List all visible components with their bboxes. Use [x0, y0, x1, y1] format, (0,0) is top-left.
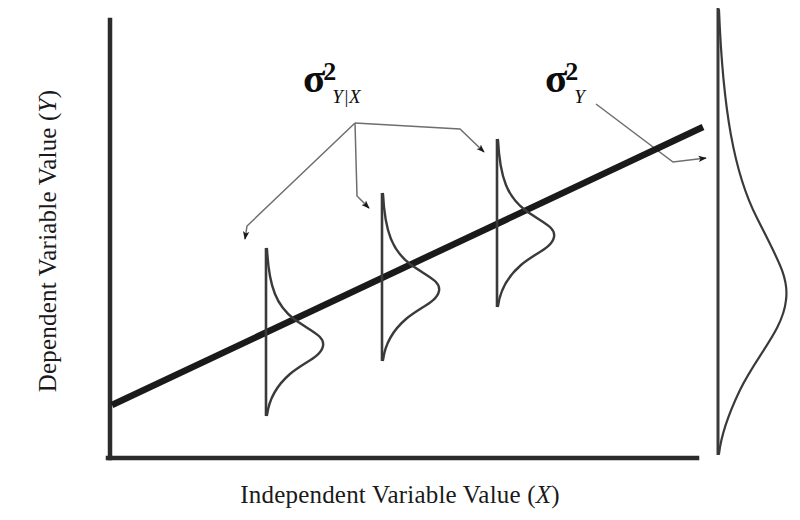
marginal-normal-curve: [719, 10, 787, 454]
plot-canvas: [0, 0, 800, 520]
sigma-squared-marginal-label: σ2Y: [545, 58, 591, 99]
x-axis-title-suffix: ): [551, 481, 560, 508]
regression-distribution-figure: σ2Y|X σ2Y Dependent Variable Value (Y) I…: [0, 0, 800, 520]
sigma-superscript-marginal: 2: [565, 57, 578, 86]
y-axis-title-suffix: ): [34, 90, 61, 99]
x-axis-title-variable: X: [536, 481, 551, 508]
sigma-subscript-conditional: Y|X: [332, 86, 361, 107]
sigma-symbol-conditional: σ: [303, 55, 325, 101]
axis-group: [108, 20, 697, 458]
y-axis-title: Dependent Variable Value (Y): [34, 26, 62, 456]
normal-curve-1: [267, 249, 323, 415]
leader-to-curve-2: [355, 123, 369, 208]
sigma-symbol-marginal: σ: [545, 55, 567, 101]
leader-to-curve-1: [245, 123, 355, 239]
regression-line: [112, 127, 703, 405]
sigma-squared-conditional-label: σ2Y|X: [303, 58, 367, 99]
x-axis-title-prefix: Independent Variable Value (: [240, 481, 536, 508]
leader-to-curve-3: [355, 123, 484, 152]
y-axis-title-variable: Y: [34, 98, 61, 112]
conditional-leader-lines: [245, 123, 484, 239]
sigma-superscript-conditional: 2: [323, 57, 336, 86]
y-axis-title-prefix: Dependent Variable Value (: [34, 112, 61, 392]
sigma-subscript-marginal: Y: [574, 86, 585, 107]
marginal-curve-y: [718, 8, 787, 455]
x-axis-title: Independent Variable Value (X): [0, 481, 800, 509]
